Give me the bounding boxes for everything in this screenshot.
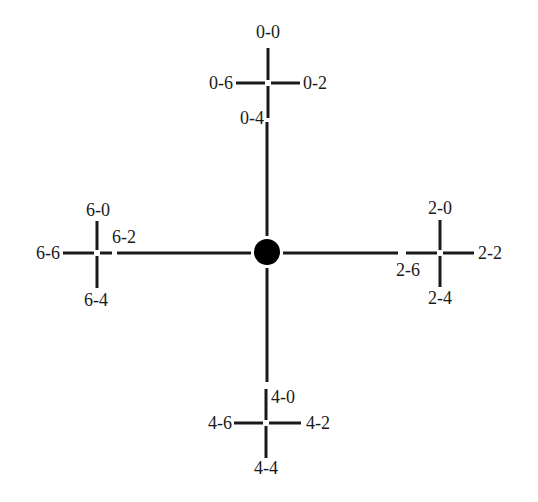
label-4-4: 4-4 (254, 458, 278, 478)
label-2-0: 2-0 (428, 198, 452, 218)
label-4-6: 4-6 (208, 413, 232, 433)
junction-2: 2-0 2-2 2-4 2-6 (396, 198, 502, 308)
junction-0: 0-0 0-2 0-4 0-6 (209, 22, 327, 128)
label-4-2: 4-2 (306, 413, 330, 433)
label-6-2: 6-2 (112, 227, 136, 247)
label-2-4: 2-4 (428, 288, 452, 308)
junction-4: 4-0 4-2 4-4 4-6 (208, 387, 330, 478)
label-0-2: 0-2 (303, 73, 327, 93)
label-6-4: 6-4 (84, 290, 108, 310)
label-0-4: 0-4 (240, 108, 264, 128)
label-6-0: 6-0 (86, 200, 110, 220)
label-2-6: 2-6 (396, 260, 420, 280)
label-0-0: 0-0 (256, 22, 280, 42)
center-node (254, 239, 280, 265)
label-2-2: 2-2 (478, 243, 502, 263)
junction-6: 6-0 6-2 6-4 6-6 (36, 200, 136, 310)
tree-diagram: 0-0 0-2 0-4 0-6 2-0 2-2 2-4 2-6 4-0 4-2 … (0, 0, 538, 502)
label-0-6: 0-6 (209, 73, 233, 93)
label-6-6: 6-6 (36, 243, 60, 263)
label-4-0: 4-0 (271, 387, 295, 407)
